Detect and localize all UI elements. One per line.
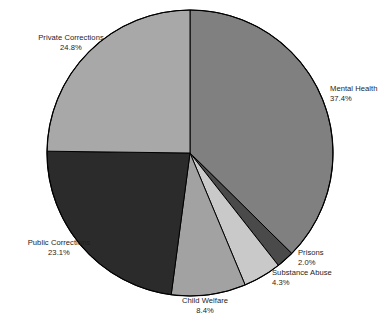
pie-label-prisons-name: Prisons [298,248,358,258]
pie-label-mental-health-percent: 37.4% [330,94,390,104]
pie-label-mental-health-name: Mental Health [330,84,390,94]
pie-label-public-corrections: Public Corrections 23.1% [4,238,114,257]
pie-label-child-welfare-name: Child Welfare [155,296,255,306]
pie-label-child-welfare: Child Welfare 8.4% [155,296,255,315]
pie-slice-private-corrections [47,10,190,153]
pie-label-prisons-percent: 2.0% [298,258,358,268]
pie-label-substance-abuse: Substance Abuse 4.3% [272,268,382,287]
pie-chart-page: Private Corrections 24.8% Mental Health … [0,0,390,331]
pie-label-public-corrections-percent: 23.1% [4,248,114,258]
pie-label-mental-health: Mental Health 37.4% [330,84,390,103]
pie-label-private-corrections-name: Private Corrections [6,33,136,43]
pie-label-public-corrections-name: Public Corrections [4,238,114,248]
pie-slice-public-corrections [47,151,190,295]
pie-label-substance-abuse-name: Substance Abuse [272,268,382,278]
pie-label-substance-abuse-percent: 4.3% [272,278,382,288]
pie-label-private-corrections-percent: 24.8% [6,43,136,53]
pie-label-private-corrections: Private Corrections 24.8% [6,33,136,52]
pie-label-child-welfare-percent: 8.4% [155,306,255,316]
pie-chart-figure: Private Corrections 24.8% Mental Health … [0,0,390,331]
pie-label-prisons: Prisons 2.0% [298,248,358,267]
footer-caption [4,322,388,331]
